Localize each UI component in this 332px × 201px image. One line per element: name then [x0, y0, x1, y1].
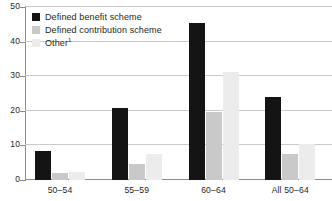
bar	[265, 97, 281, 180]
bar	[223, 72, 239, 180]
legend-swatch-dark-icon	[32, 13, 40, 21]
y-tick-label-40: 40	[0, 37, 20, 46]
legend-item: Defined benefit scheme	[32, 11, 162, 23]
bar	[206, 112, 222, 180]
legend-item-label: Defined contribution scheme	[45, 25, 162, 35]
bar	[112, 108, 128, 180]
y-tick-label-10: 10	[0, 140, 20, 149]
bar-chart: 01020304050 50–5455–5960–64All 50–64 Def…	[0, 0, 332, 201]
legend-swatch-light-gray-icon	[32, 39, 40, 47]
x-tick-label: 55–59	[97, 185, 177, 195]
bar	[69, 172, 85, 180]
bar	[35, 151, 51, 180]
y-tick-label-0: 0	[0, 175, 20, 184]
legend-item-label: Other1	[45, 38, 71, 48]
footnote-marker: 1	[68, 37, 71, 43]
chart-legend: Defined benefit schemeDefined contributi…	[32, 11, 162, 50]
bar	[129, 164, 145, 180]
legend-item: Other1	[32, 37, 162, 49]
legend-item: Defined contribution scheme	[32, 24, 162, 36]
bar	[52, 173, 68, 180]
bar-group	[255, 7, 332, 180]
bar	[189, 23, 205, 180]
bar	[282, 154, 298, 180]
legend-item-label: Defined benefit scheme	[45, 12, 142, 22]
x-tick-label: 50–54	[20, 185, 100, 195]
y-tick-label-30: 30	[0, 71, 20, 80]
y-tick-label-50: 50	[0, 2, 20, 11]
x-tick-label: 60–64	[174, 185, 254, 195]
bar-group	[179, 7, 256, 180]
bar	[299, 144, 315, 180]
y-tick-label-20: 20	[0, 106, 20, 115]
x-tick-label: All 50–64	[250, 185, 330, 195]
bar	[146, 154, 162, 180]
legend-swatch-mid-gray-icon	[32, 26, 40, 34]
